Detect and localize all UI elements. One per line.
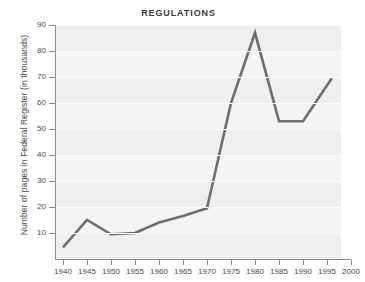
y-tick-mark [49, 25, 55, 26]
x-tick-mark [63, 260, 64, 265]
gridline [56, 155, 341, 156]
x-tick-mark [351, 260, 352, 265]
x-tick-mark [231, 260, 232, 265]
y-tick-mark [49, 77, 55, 78]
y-tick-mark [49, 233, 55, 234]
x-tick-mark [135, 260, 136, 265]
gridline [56, 129, 341, 130]
x-tick-label: 2000 [336, 267, 365, 276]
data-series-line [56, 25, 341, 259]
y-tick-label: 80 [22, 47, 46, 55]
gridline [56, 77, 341, 78]
gridline [56, 103, 341, 104]
x-tick-mark [255, 260, 256, 265]
chart-title: REGULATIONS [0, 8, 357, 18]
y-tick-mark [49, 51, 55, 52]
gridline [56, 207, 341, 208]
plot-area [56, 25, 341, 259]
x-tick-mark [303, 260, 304, 265]
gridline [56, 233, 341, 234]
y-axis-line [55, 25, 56, 260]
y-axis-title: Number of pages in Federal Register (in … [19, 25, 29, 245]
gridline [56, 25, 341, 26]
y-tick-label: 50 [22, 125, 46, 133]
y-tick-label: 40 [22, 151, 46, 159]
y-tick-mark [49, 103, 55, 104]
y-tick-mark [49, 207, 55, 208]
y-tick-mark [49, 129, 55, 130]
y-tick-mark [49, 155, 55, 156]
x-tick-mark [183, 260, 184, 265]
x-tick-mark [87, 260, 88, 265]
y-tick-label: 70 [22, 73, 46, 81]
x-tick-mark [159, 260, 160, 265]
y-tick-label: 10 [22, 229, 46, 237]
x-tick-mark [207, 260, 208, 265]
x-tick-mark [279, 260, 280, 265]
y-tick-mark [49, 181, 55, 182]
gridline [56, 51, 341, 52]
x-axis-line [55, 259, 351, 260]
gridline [56, 181, 341, 182]
y-tick-label: 60 [22, 99, 46, 107]
y-tick-label: 20 [22, 203, 46, 211]
x-tick-mark [327, 260, 328, 265]
y-tick-label: 90 [22, 21, 46, 29]
y-tick-label: 30 [22, 177, 46, 185]
series-polyline [63, 33, 332, 248]
x-tick-mark [111, 260, 112, 265]
